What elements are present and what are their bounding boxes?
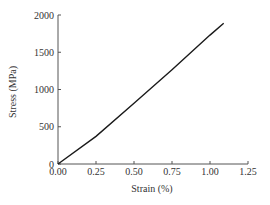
y-tick-label: 1000 (34, 84, 54, 95)
x-tick-labels: 0.000.250.500.751.001.25 (49, 166, 257, 177)
x-tick-label: 0.50 (125, 166, 143, 177)
y-axis-label: Stress (MPa) (7, 66, 19, 118)
chart-svg: 0.000.250.500.751.001.25 050010001500200… (0, 0, 270, 205)
y-tick-labels: 0500100015002000 (34, 10, 54, 170)
x-tick-label: 1.25 (239, 166, 257, 177)
stress-strain-curve (58, 23, 224, 164)
y-tick-label: 0 (49, 159, 54, 170)
x-axis-label: Strain (%) (131, 183, 172, 195)
y-tick-label: 1500 (34, 47, 54, 58)
tick-marks (58, 15, 248, 164)
stress-strain-chart: 0.000.250.500.751.001.25 050010001500200… (0, 0, 270, 205)
y-tick-label: 2000 (34, 10, 54, 21)
x-tick-label: 0.75 (163, 166, 181, 177)
y-tick-label: 500 (39, 121, 54, 132)
x-tick-label: 1.00 (201, 166, 219, 177)
x-tick-label: 0.25 (87, 166, 105, 177)
axes (58, 15, 248, 164)
